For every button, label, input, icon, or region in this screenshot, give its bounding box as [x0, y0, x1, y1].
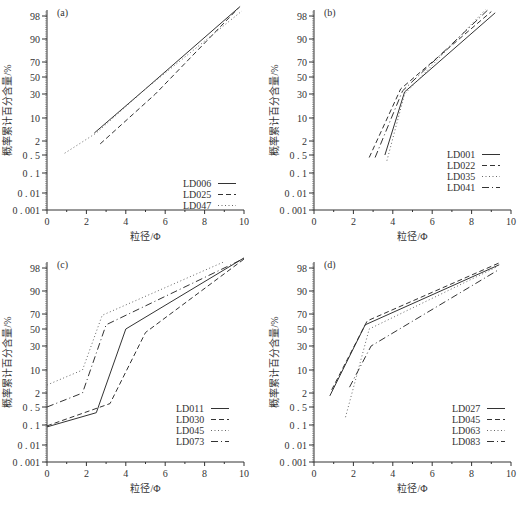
x-tick-label: 10: [506, 216, 516, 227]
legend-label: LD022: [447, 160, 475, 171]
legend-label: LD035: [447, 171, 475, 182]
y-tick-label: 90: [297, 286, 307, 297]
x-tick-label: 0: [312, 216, 317, 227]
x-tick-label: 0: [45, 468, 50, 479]
legend-label: LD063: [452, 425, 480, 436]
series-line-ld035: [387, 10, 486, 161]
y-tick-label: 50: [30, 72, 40, 83]
y-tick-label: 50: [297, 324, 307, 335]
x-tick-label: 4: [390, 468, 395, 479]
y-tick-label: 70: [297, 309, 307, 320]
x-tick-label: 2: [84, 216, 89, 227]
y-tick-label: 0 . 1: [290, 168, 308, 179]
series-line-ld025: [100, 8, 238, 144]
panel-b: 0 . 0010 . 010 . 10 . 521030507090980246…: [268, 7, 516, 242]
y-tick-label: 0 . 001: [280, 457, 308, 468]
y-tick-label: 0 . 1: [23, 420, 41, 431]
y-tick-label: 0 . 1: [290, 420, 308, 431]
y-tick-label: 70: [30, 57, 40, 68]
x-tick-label: 2: [351, 216, 356, 227]
y-tick-label: 0 . 01: [18, 188, 41, 199]
y-tick-label: 30: [297, 341, 307, 352]
y-tick-label: 0 . 01: [285, 440, 308, 451]
series-line-ld027: [330, 265, 499, 396]
y-tick-label: 0 . 5: [23, 150, 41, 161]
y-tick-label: 30: [30, 341, 40, 352]
legend-label: LD011: [176, 403, 204, 414]
x-axis-title: 粒径/Φ: [130, 230, 160, 242]
legend-label: LD006: [183, 178, 211, 189]
y-tick-label: 98: [297, 263, 307, 274]
legend-label: LD001: [447, 149, 475, 160]
x-tick-label: 0: [45, 216, 50, 227]
y-tick-label: 98: [297, 11, 307, 22]
y-tick-label: 0 . 001: [13, 457, 41, 468]
x-tick-label: 6: [163, 468, 168, 479]
panel-label: (a): [57, 7, 68, 19]
x-tick-label: 6: [430, 468, 435, 479]
y-tick-label: 50: [297, 72, 307, 83]
series-line-ld041: [375, 10, 487, 157]
y-tick-label: 70: [297, 57, 307, 68]
x-tick-label: 8: [469, 216, 474, 227]
x-axis-title: 粒径/Φ: [397, 482, 427, 494]
y-tick-label: 30: [30, 89, 40, 100]
series-line-ld011: [47, 258, 244, 427]
x-tick-label: 6: [430, 216, 435, 227]
legend-label: LD045: [176, 425, 204, 436]
x-tick-label: 2: [84, 468, 89, 479]
x-tick-label: 10: [239, 468, 249, 479]
legend-label: LD083: [452, 436, 480, 447]
y-tick-label: 90: [30, 286, 40, 297]
y-tick-label: 90: [297, 34, 307, 45]
y-tick-label: 0 . 5: [290, 402, 308, 413]
x-tick-label: 2: [351, 468, 356, 479]
panel-label: (c): [57, 259, 68, 271]
x-tick-label: 10: [239, 216, 249, 227]
panel-c: 0 . 0010 . 010 . 10 . 521030507090980246…: [1, 258, 249, 494]
legend-label: LD027: [452, 403, 480, 414]
legend-label: LD045: [452, 414, 480, 425]
y-axis-title: 概率累计百分含量/%: [268, 316, 280, 407]
x-tick-label: 8: [202, 468, 207, 479]
y-tick-label: 0 . 5: [23, 402, 41, 413]
y-tick-label: 2: [35, 388, 40, 399]
y-tick-label: 30: [297, 89, 307, 100]
series-line-ld063: [346, 267, 498, 418]
x-tick-label: 8: [469, 468, 474, 479]
panel-label: (b): [324, 7, 336, 19]
y-tick-label: 2: [35, 136, 40, 147]
legend-label: LD041: [447, 182, 475, 193]
y-tick-label: 10: [297, 113, 307, 124]
y-tick-label: 0 . 001: [280, 205, 308, 216]
y-tick-label: 0 . 001: [13, 205, 41, 216]
legend-label: LD073: [176, 436, 204, 447]
x-tick-label: 6: [163, 216, 168, 227]
series-line-ld030: [47, 259, 244, 426]
y-axis-title: 概率累计百分含量/%: [1, 316, 13, 407]
legend-label: LD030: [176, 414, 204, 425]
series-line-ld001: [385, 13, 495, 155]
y-tick-label: 2: [302, 388, 307, 399]
x-tick-label: 4: [390, 216, 395, 227]
series-line-ld083: [350, 269, 500, 387]
series-line-ld022: [369, 12, 491, 158]
x-tick-label: 4: [123, 468, 128, 479]
y-tick-label: 10: [297, 365, 307, 376]
figure: 0 . 0010 . 010 . 10 . 521030507090980246…: [0, 0, 523, 508]
panel-d: 0 . 0010 . 010 . 10 . 521030507090980246…: [268, 259, 516, 494]
y-axis-title: 概率累计百分含量/%: [1, 64, 13, 155]
y-tick-label: 0 . 1: [23, 168, 41, 179]
x-tick-label: 0: [312, 468, 317, 479]
series-line-ld045: [332, 263, 500, 390]
x-axis-title: 粒径/Φ: [130, 482, 160, 494]
y-tick-label: 2: [302, 136, 307, 147]
panel-label: (d): [324, 259, 336, 271]
x-axis-title: 粒径/Φ: [397, 230, 427, 242]
x-tick-label: 4: [123, 216, 128, 227]
series-line-ld006: [94, 7, 240, 134]
y-tick-label: 0 . 01: [18, 440, 41, 451]
y-tick-label: 10: [30, 365, 40, 376]
legend-label: LD047: [183, 200, 211, 211]
y-axis-title: 概率累计百分含量/%: [268, 64, 280, 155]
